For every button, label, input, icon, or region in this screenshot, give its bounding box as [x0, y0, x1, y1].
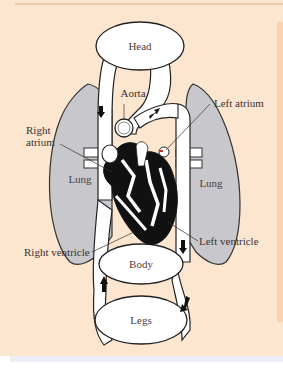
bottom-shadow [10, 356, 283, 362]
aorta-label: Aorta [120, 87, 145, 99]
legs-label: Legs [130, 314, 151, 326]
right-atrium-label-line1: Right [26, 124, 50, 136]
right-atrium-label-line2: atrium [26, 136, 55, 148]
descending-aorta [176, 104, 190, 262]
left-lung-label: Lung [68, 173, 92, 185]
right-lung-label: Lung [199, 177, 223, 189]
body-label: Body [129, 258, 153, 270]
diagram-page: Head Body Legs Lung Lung Aorta Left atri… [0, 0, 283, 371]
right-ventricle-label: Right ventricle [24, 246, 90, 258]
left-ventricle-label: Left ventricle [199, 235, 259, 247]
circulation-diagram: Head Body Legs Lung Lung Aorta Left atri… [0, 0, 283, 371]
left-atrium-label: Left atrium [214, 97, 264, 109]
heart [102, 142, 177, 245]
head-label: Head [128, 40, 152, 52]
